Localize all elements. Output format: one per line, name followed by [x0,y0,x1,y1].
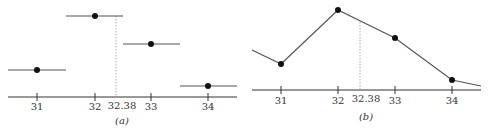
data-point-31-a [34,67,40,73]
tick-label-34-b: 34 [446,95,459,106]
panel-a: 31 32 32.38 33 34 (a) [8,13,237,126]
caption-b: (b) [359,111,373,122]
tick-label-33-a: 33 [145,101,158,112]
panel-b: 31 32 32.38 33 34 (b) [252,7,481,122]
query-label-b: 32.38 [352,93,381,104]
data-point-34-a [205,83,211,89]
data-point-34-b [449,77,455,83]
tick-label-34-a: 34 [202,101,215,112]
caption-a: (a) [115,115,129,126]
figure: 31 32 32.38 33 34 (a) 31 32 32.38 33 34 … [0,0,491,134]
tick-label-31-b: 31 [275,95,288,106]
data-point-32-b [335,7,341,13]
query-label-a: 32.38 [108,100,137,111]
data-point-33-b [392,35,398,41]
tick-label-32-a: 32 [89,101,102,112]
data-point-31-b [278,61,284,67]
data-point-33-a [148,41,154,47]
interpolation-line [252,10,481,86]
tick-label-32-b: 32 [332,95,345,106]
tick-label-31-a: 31 [31,101,44,112]
data-point-32-a [92,13,98,19]
tick-label-33-b: 33 [389,95,402,106]
